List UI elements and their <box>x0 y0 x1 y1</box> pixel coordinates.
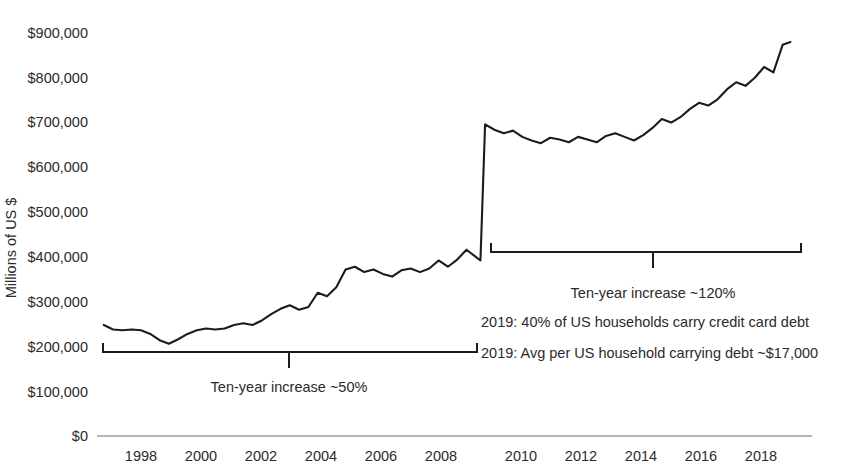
x-tick-label-2012: 2012 <box>565 448 597 464</box>
right-bracket-shape <box>491 243 801 252</box>
x-tick-label-2014: 2014 <box>625 448 657 464</box>
left-bracket-shape <box>103 343 477 352</box>
y-axis-title: Millions of US $ <box>3 198 19 299</box>
x-tick-label-2002: 2002 <box>245 448 277 464</box>
x-tick-label-2010: 2010 <box>505 448 537 464</box>
right-range-bracket <box>491 243 801 268</box>
y-tick-label-600000: $600,000 <box>28 159 88 175</box>
x-tick-label-2016: 2016 <box>685 448 717 464</box>
avg-debt-stat-label: 2019: Avg per US household carrying debt… <box>481 345 818 361</box>
households-stat-label: 2019: 40% of US households carry credit … <box>481 314 809 330</box>
y-tick-label-300000: $300,000 <box>28 294 88 310</box>
left-range-bracket <box>103 343 477 368</box>
x-tick-label-2000: 2000 <box>185 448 217 464</box>
x-tick-label-2018: 2018 <box>745 448 777 464</box>
x-axis-tick-labels: 1998 2000 2002 2004 2006 2008 2010 2012 … <box>125 448 777 464</box>
x-tick-label-1998: 1998 <box>125 448 157 464</box>
x-tick-label-2008: 2008 <box>425 448 457 464</box>
y-tick-label-0: $0 <box>72 428 88 444</box>
y-tick-label-900000: $900,000 <box>28 25 88 41</box>
y-tick-label-800000: $800,000 <box>28 70 88 86</box>
y-tick-label-400000: $400,000 <box>28 249 88 265</box>
y-tick-label-100000: $100,000 <box>28 384 88 400</box>
y-tick-label-700000: $700,000 <box>28 114 88 130</box>
y-tick-label-500000: $500,000 <box>28 204 88 220</box>
y-axis-tick-labels: $900,000 $800,000 $700,000 $600,000 $500… <box>28 25 88 444</box>
left-bracket-label: Ten-year increase ~50% <box>211 379 368 395</box>
x-tick-label-2006: 2006 <box>365 448 397 464</box>
x-tick-label-2004: 2004 <box>305 448 337 464</box>
right-bracket-label: Ten-year increase ~120% <box>571 285 736 301</box>
y-tick-label-200000: $200,000 <box>28 339 88 355</box>
chart-container: $900,000 $800,000 $700,000 $600,000 $500… <box>0 0 842 473</box>
credit-card-debt-line-chart: $900,000 $800,000 $700,000 $600,000 $500… <box>0 0 842 473</box>
